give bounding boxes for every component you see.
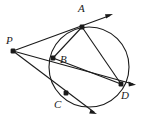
point-label-p: P xyxy=(6,35,13,46)
geometry-diagram xyxy=(0,0,143,127)
point-label-b: B xyxy=(60,54,67,65)
ray-p-a xyxy=(13,16,110,52)
point-b-dot xyxy=(51,56,56,61)
ray-p-b-d xyxy=(13,51,133,84)
point-label-a: A xyxy=(78,3,85,14)
point-label-d: D xyxy=(121,90,129,101)
circle-shape xyxy=(49,27,129,107)
point-d-dot xyxy=(119,82,124,87)
arrowhead-ray-p-c xyxy=(89,109,97,114)
point-label-c: C xyxy=(54,99,61,110)
point-a-dot xyxy=(80,25,85,30)
arrowhead-ray-p-b-d xyxy=(128,82,136,87)
arrowhead-ray-p-a xyxy=(105,14,113,19)
point-c-dot xyxy=(64,91,69,96)
point-p-dot xyxy=(11,49,16,54)
